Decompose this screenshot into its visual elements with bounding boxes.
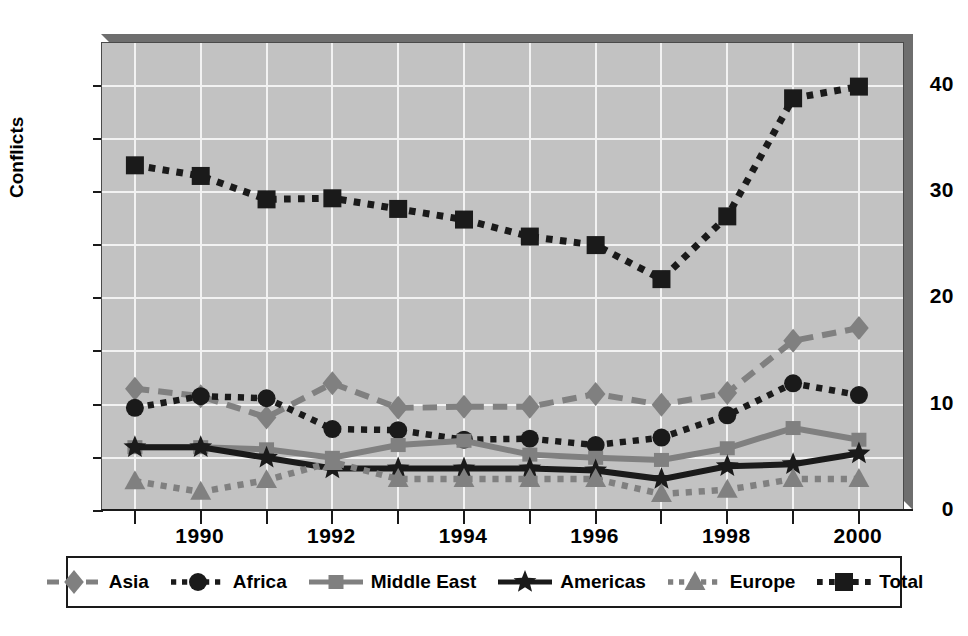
data-point-circle [189, 573, 207, 591]
legend-label: Middle East [371, 571, 477, 593]
y-axis-title: Conflicts [6, 117, 28, 198]
data-point-star [716, 454, 739, 476]
x-axis-tick-label: 1990 [155, 524, 245, 548]
data-point-circle [258, 389, 276, 407]
data-point-circle [784, 374, 802, 392]
data-point-diamond [388, 396, 408, 420]
data-point-bigsquare [126, 156, 144, 174]
data-point-square [328, 575, 343, 589]
legend-items: AsiaAfricaMiddle EastAmericasEuropeTotal [45, 569, 924, 595]
data-point-bigsquare [718, 207, 736, 225]
data-point-bigsquare [521, 228, 539, 246]
legend-swatch-circle-icon [169, 569, 227, 595]
legend-item-africa[interactable]: Africa [169, 569, 287, 595]
data-point-square [654, 453, 669, 467]
data-point-bigsquare [652, 270, 670, 288]
data-point-triangle [717, 479, 738, 498]
data-point-star [514, 570, 537, 592]
x-axis-tick [858, 509, 860, 524]
x-axis-tick [792, 509, 794, 524]
x-axis-tick-label: 1996 [550, 524, 640, 548]
data-point-diamond [652, 393, 672, 417]
data-point-diamond [849, 316, 869, 340]
legend-item-middle-east[interactable]: Middle East [307, 569, 477, 595]
x-axis-tick-label: 1998 [681, 524, 771, 548]
data-point-diamond [454, 395, 474, 419]
legend-swatch-square-icon [307, 569, 365, 595]
data-point-bigsquare [784, 89, 802, 107]
series-line [135, 87, 859, 280]
data-point-triangle [848, 468, 869, 487]
data-point-square [457, 434, 472, 448]
data-point-circle [652, 429, 670, 447]
data-point-triangle [783, 468, 804, 487]
legend-item-europe[interactable]: Europe [666, 569, 795, 595]
legend-swatch-diamond-icon [45, 569, 103, 595]
data-point-star [848, 442, 871, 464]
x-axis-tick [134, 509, 136, 524]
x-axis-tick-label: 2000 [813, 524, 903, 548]
data-point-diamond [257, 405, 277, 429]
series-line [135, 383, 859, 445]
x-axis-tick [463, 509, 465, 524]
legend: AsiaAfricaMiddle EastAmericasEuropeTotal [66, 556, 902, 608]
legend-label: Americas [560, 571, 646, 593]
data-point-circle [126, 399, 144, 417]
data-point-circle [521, 430, 539, 448]
data-point-bigsquare [587, 236, 605, 254]
x-axis-tick [660, 509, 662, 524]
plot-panel [101, 42, 904, 510]
data-point-bigsquare [850, 78, 868, 96]
x-axis-tick [266, 509, 268, 524]
data-point-diamond [64, 570, 84, 594]
data-point-circle [323, 420, 341, 438]
x-axis-tick [595, 509, 597, 524]
x-axis-tick [200, 509, 202, 524]
data-point-square [720, 441, 735, 455]
x-axis-tick [529, 509, 531, 524]
x-axis-tick [397, 509, 399, 524]
data-point-triangle [256, 469, 277, 488]
series-asia [125, 316, 869, 429]
legend-item-total[interactable]: Total [815, 569, 923, 595]
legend-swatch-triangle-icon [666, 569, 724, 595]
data-point-bigsquare [192, 167, 210, 185]
data-point-square [391, 438, 406, 452]
series-layer [102, 43, 904, 510]
data-point-bigsquare [258, 190, 276, 208]
x-axis-tick [726, 509, 728, 524]
data-point-triangle [190, 481, 211, 500]
legend-swatch-star-icon [496, 569, 554, 595]
data-point-circle [389, 421, 407, 439]
x-axis-tick [331, 509, 333, 524]
series-europe [124, 451, 869, 502]
data-point-triangle [651, 483, 672, 502]
data-point-bigsquare [323, 189, 341, 207]
data-point-diamond [125, 377, 145, 401]
legend-item-americas[interactable]: Americas [496, 569, 646, 595]
data-point-diamond [323, 371, 343, 395]
legend-swatch-bigsquare-icon [815, 569, 873, 595]
plot-bevel-right [904, 34, 913, 510]
legend-item-asia[interactable]: Asia [45, 569, 149, 595]
legend-label: Asia [109, 571, 149, 593]
data-point-circle [718, 406, 736, 424]
data-point-bigsquare [455, 211, 473, 229]
legend-label: Europe [730, 571, 795, 593]
data-point-triangle [124, 470, 145, 489]
data-point-diamond [520, 395, 540, 419]
data-point-square [786, 421, 801, 435]
x-axis-tick-label: 1992 [286, 524, 376, 548]
data-point-circle [850, 386, 868, 404]
data-point-diamond [586, 382, 606, 406]
plot-area [101, 34, 913, 510]
series-line [135, 328, 859, 417]
data-point-bigsquare [835, 573, 853, 591]
x-axis-tick-label: 1994 [418, 524, 508, 548]
series-middle-east [127, 421, 866, 467]
series-line [135, 447, 859, 479]
data-point-circle [192, 387, 210, 405]
chart-figure: 403020100 Conflicts 19901992199419961998… [0, 0, 968, 636]
legend-label: Africa [233, 571, 287, 593]
data-point-bigsquare [389, 200, 407, 218]
